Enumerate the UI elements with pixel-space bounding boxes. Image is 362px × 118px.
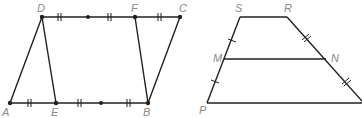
left-figure: D F C A E B [1, 2, 187, 118]
segment-SP [207, 17, 240, 103]
segment-FB [135, 17, 148, 103]
right-figure: S R M N P [199, 2, 362, 116]
point-E [54, 101, 58, 105]
geometry-diagram: D F C A E B S R M N P [0, 0, 362, 118]
point-D [40, 15, 44, 19]
point-midpoint-bottom [99, 101, 103, 105]
segment-DE [42, 17, 56, 103]
label-A: A [1, 106, 9, 118]
segment-AD [10, 17, 42, 103]
point-F [133, 15, 137, 19]
label-C: C [179, 2, 187, 14]
label-B: B [143, 106, 150, 118]
label-N: N [331, 52, 339, 64]
label-M: M [213, 52, 223, 64]
label-E: E [51, 106, 59, 118]
label-S: S [235, 2, 243, 14]
point-C [178, 15, 182, 19]
segment-BC [148, 17, 180, 103]
point-A [8, 101, 12, 105]
label-R: R [284, 2, 292, 14]
label-F: F [131, 2, 139, 14]
point-midpoint-top [86, 15, 90, 19]
point-B [146, 101, 150, 105]
label-D: D [37, 2, 45, 14]
label-P: P [199, 104, 207, 116]
